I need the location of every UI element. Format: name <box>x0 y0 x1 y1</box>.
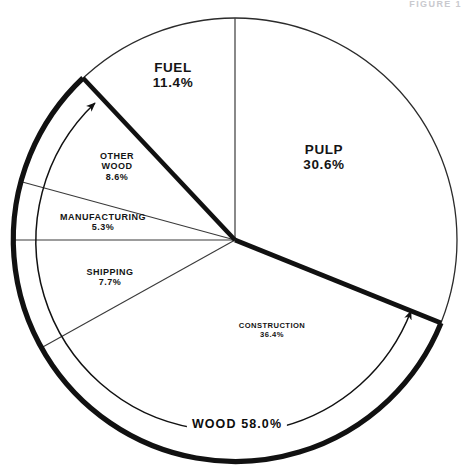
slice-value-pulp: 30.6% <box>303 157 344 172</box>
slice-name-manufacturing: MANUFACTURING <box>60 212 146 222</box>
slice-value-fuel: 11.4% <box>153 75 194 90</box>
slice-value-manufacturing: 5.3% <box>60 222 146 232</box>
group-name-wood: WOOD <box>192 417 237 431</box>
slice-label-manufacturing: MANUFACTURING 5.3% <box>60 212 146 233</box>
slice-label-construction: CONSTRUCTION 36.4% <box>239 322 306 339</box>
group-label-wood: WOOD 58.0% <box>187 417 287 431</box>
slice-name-pulp: PULP <box>303 142 344 157</box>
slice-label-pulp: PULP 30.6% <box>303 142 344 173</box>
pie-chart-graphic <box>0 0 470 471</box>
slice-value-shipping: 7.7% <box>86 277 133 287</box>
slice-name-other-wood-line1: OTHER <box>100 151 134 161</box>
slice-name-fuel: FUEL <box>153 60 194 75</box>
slice-name-shipping: SHIPPING <box>86 267 133 277</box>
slice-name-other-wood-line2: WOOD <box>100 161 134 171</box>
slice-value-construction: 36.4% <box>239 331 306 340</box>
slice-label-shipping: SHIPPING 7.7% <box>86 267 133 288</box>
slice-value-other-wood: 8.6% <box>100 171 134 181</box>
slice-label-fuel: FUEL 11.4% <box>153 60 194 91</box>
figure-root: FIGURE 1 <box>0 0 470 471</box>
slice-label-other-wood: OTHER WOOD 8.6% <box>100 151 134 182</box>
group-value-wood: 58.0% <box>241 417 282 431</box>
